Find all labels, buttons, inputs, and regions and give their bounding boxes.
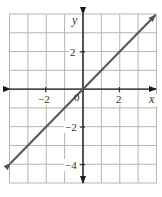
graph-svg: −2 2 0 2 −2 −4 y x [0, 0, 162, 197]
y-axis-label: y [71, 13, 78, 27]
x-tick-label-neg2: −2 [38, 93, 50, 105]
y-tick-label-neg2: −2 [65, 121, 77, 133]
x-tick-label-2: 2 [116, 93, 122, 105]
y-tick-label-neg4: −4 [65, 159, 77, 171]
y-tick-label-2: 2 [70, 46, 76, 58]
x-axis-label: x [148, 92, 155, 106]
origin-label: 0 [74, 91, 80, 103]
coordinate-graph: −2 2 0 2 −2 −4 y x [0, 0, 162, 197]
